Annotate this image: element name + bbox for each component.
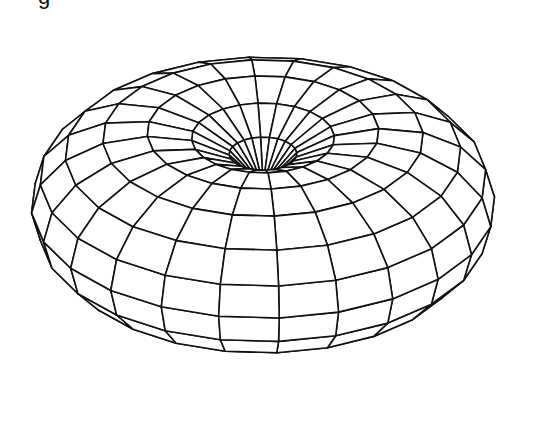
mesh-faces [32,57,495,352]
mesh-face [279,280,339,318]
mesh-face [225,215,277,250]
mesh-face [277,245,336,286]
mesh-face [220,249,278,286]
mesh-face [219,316,280,341]
mesh-face [219,284,280,318]
horn-torus-wireframe [0,0,533,431]
